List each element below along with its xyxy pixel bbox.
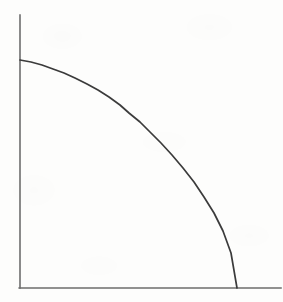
frontier-curve [20, 60, 237, 288]
chart-figure [0, 0, 283, 302]
chart-canvas [0, 0, 283, 302]
